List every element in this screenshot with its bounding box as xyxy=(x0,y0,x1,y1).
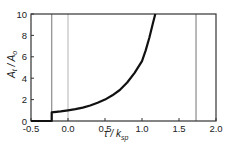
x-tick-label: 0.0 xyxy=(61,123,74,134)
y-tick-label: 6 xyxy=(22,51,27,62)
x-tick-label: -0.5 xyxy=(23,123,39,134)
x-tick-label: 2.0 xyxy=(209,123,222,134)
x-axis-label: τ / ksp xyxy=(104,128,129,142)
y-tick-label: 10 xyxy=(16,9,27,20)
data-series-line xyxy=(31,14,155,121)
x-tick-label: 1.5 xyxy=(172,123,185,134)
y-tick-label: 2 xyxy=(22,94,27,105)
chart: 0246810 -0.50.00.51.01.52.0 At / Ao τ / … xyxy=(0,0,233,146)
plot-frame xyxy=(31,14,216,121)
x-tick-label: 1.0 xyxy=(135,123,148,134)
y-tick-label: 8 xyxy=(22,30,27,41)
y-axis-label: At / Ao xyxy=(6,51,18,79)
reference-lines xyxy=(52,14,196,121)
y-tick-label: 4 xyxy=(22,73,27,84)
